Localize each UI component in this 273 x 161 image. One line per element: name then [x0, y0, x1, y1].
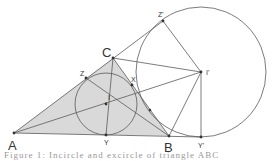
label-c: C [102, 45, 111, 60]
label-i: I [108, 94, 110, 101]
line-c-iprime [113, 58, 201, 72]
point-y [105, 134, 108, 137]
label-yprime: Y' [198, 142, 204, 149]
point-c [112, 57, 115, 60]
point-z [85, 77, 88, 80]
line-iprime-b [169, 72, 201, 136]
line-zprime-iprime [163, 21, 201, 72]
label-x: X [131, 76, 136, 83]
label-y: Y [104, 139, 109, 146]
triangle-abc-fill [14, 58, 169, 136]
label-iprime: I' [206, 69, 209, 76]
point-iprime [200, 71, 203, 74]
figure-caption: Figure 1: Incircle and excircle of trian… [4, 150, 269, 161]
label-zprime: Z' [158, 11, 164, 18]
point-x [131, 84, 134, 87]
point-a [13, 132, 16, 135]
point-zprime [162, 20, 165, 23]
point-tangent [149, 109, 151, 111]
point-yprime [200, 136, 203, 139]
point-i [105, 103, 108, 106]
point-b [168, 135, 171, 138]
label-z: Z [80, 70, 85, 77]
geometry-diagram: A B C I Z X Y Z' I' Y' [0, 0, 273, 161]
